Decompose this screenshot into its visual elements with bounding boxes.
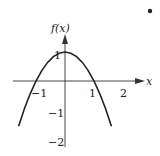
y-axis-arrow-icon — [62, 34, 68, 44]
x-axis-arrow-icon — [135, 78, 145, 84]
bullet-dot — [148, 9, 152, 13]
function-plot: f(x) x −1 1 2 1 −1 −2 — [0, 0, 160, 156]
x-tick-neg1: −1 — [31, 87, 47, 100]
x-axis-label: x — [146, 75, 153, 88]
y-axis-label: f(x) — [50, 22, 70, 35]
y-tick-1: 1 — [54, 49, 61, 62]
y-tick-neg1: −1 — [48, 107, 64, 120]
x-tick-2: 2 — [120, 87, 127, 100]
x-tick-1: 1 — [89, 87, 96, 100]
y-tick-neg2: −2 — [48, 136, 64, 149]
